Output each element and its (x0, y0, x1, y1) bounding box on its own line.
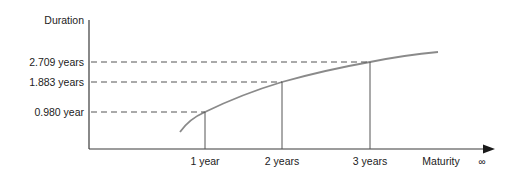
x-tick-label-2-years: 2 years (265, 155, 299, 167)
x-tick-label-3-years: 3 years (353, 155, 387, 167)
infinity-symbol: ∞ (478, 156, 485, 167)
x-tick-label-1-year: 1 year (190, 155, 220, 167)
duration-curve (180, 52, 438, 132)
y-axis-title: Duration (44, 14, 84, 26)
y-tick-label-1883: 1.883 years (29, 76, 84, 88)
duration-maturity-chart: Duration 2.709 years 1.883 years 0.980 y… (0, 0, 515, 177)
x-axis-title: Maturity (422, 155, 460, 167)
x-axis-arrow-icon (483, 145, 495, 154)
y-tick-label-0980: 0.980 year (34, 106, 84, 118)
y-tick-label-2709: 2.709 years (29, 56, 84, 68)
